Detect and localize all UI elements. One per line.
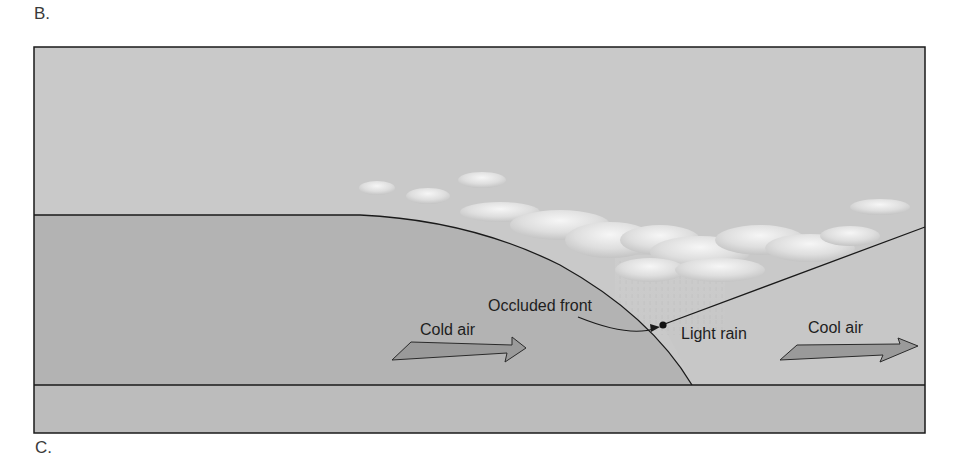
label-occluded-front: Occluded front	[488, 297, 593, 314]
label-light-rain: Light rain	[681, 325, 747, 342]
panel-label-c: C.	[35, 438, 52, 458]
label-cool-air: Cool air	[808, 319, 864, 336]
occluded-front-diagram: Occluded front Cold air Light rain Cool …	[0, 0, 957, 468]
label-cold-air: Cold air	[420, 321, 476, 338]
ground	[34, 385, 925, 433]
occlusion-point	[659, 321, 666, 328]
